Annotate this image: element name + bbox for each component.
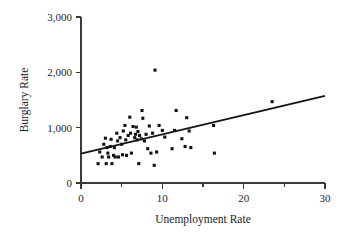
data-point-9 bbox=[109, 145, 112, 148]
data-point-32 bbox=[135, 126, 138, 129]
data-point-19 bbox=[120, 143, 123, 146]
chart-canvas: 01,0002,0003,0000102030Unemployment Rate… bbox=[0, 0, 346, 236]
data-point-21 bbox=[122, 129, 125, 132]
data-point-49 bbox=[158, 124, 161, 127]
data-point-33 bbox=[136, 138, 139, 141]
data-point-26 bbox=[128, 116, 131, 119]
data-point-5 bbox=[105, 162, 108, 165]
data-point-43 bbox=[148, 124, 151, 127]
data-point-22 bbox=[123, 124, 126, 127]
data-point-11 bbox=[110, 162, 113, 165]
regression-line bbox=[81, 96, 325, 154]
data-point-44 bbox=[149, 152, 152, 155]
data-point-15 bbox=[115, 132, 118, 135]
data-point-14 bbox=[114, 155, 117, 158]
y-tick-label-3000: 3,000 bbox=[47, 11, 72, 23]
data-point-56 bbox=[184, 145, 187, 148]
y-tick-label-1000: 1,000 bbox=[47, 122, 72, 134]
data-point-16 bbox=[116, 139, 119, 142]
x-tick-label-0: 0 bbox=[78, 192, 84, 204]
trend-line bbox=[81, 96, 325, 154]
x-axis-title: Unemployment Rate bbox=[155, 213, 251, 226]
data-point-51 bbox=[163, 136, 166, 139]
data-point-24 bbox=[125, 154, 128, 157]
data-points bbox=[97, 69, 274, 167]
data-point-7 bbox=[106, 152, 109, 155]
data-point-27 bbox=[129, 132, 132, 135]
data-point-45 bbox=[151, 132, 154, 135]
data-point-29 bbox=[132, 125, 135, 128]
data-point-13 bbox=[113, 146, 116, 149]
data-point-58 bbox=[188, 129, 191, 132]
data-point-0 bbox=[97, 162, 100, 165]
x-tick-label-10: 10 bbox=[157, 192, 169, 204]
data-point-3 bbox=[102, 143, 105, 146]
data-point-62 bbox=[271, 100, 274, 103]
data-point-55 bbox=[180, 137, 183, 140]
data-point-38 bbox=[140, 109, 143, 112]
data-point-52 bbox=[171, 147, 174, 150]
data-point-4 bbox=[104, 137, 107, 140]
data-point-50 bbox=[161, 129, 164, 132]
data-point-36 bbox=[138, 134, 141, 137]
data-point-1 bbox=[98, 150, 101, 153]
data-point-61 bbox=[213, 152, 216, 155]
data-point-28 bbox=[130, 152, 133, 155]
data-point-60 bbox=[212, 124, 215, 127]
axis-labels: 01,0002,0003,0000102030Unemployment Rate… bbox=[18, 11, 331, 226]
x-tick-label-20: 20 bbox=[238, 192, 250, 204]
data-point-40 bbox=[143, 139, 146, 142]
data-point-46 bbox=[153, 164, 156, 167]
data-point-48 bbox=[155, 150, 158, 153]
data-point-47 bbox=[153, 69, 156, 72]
data-point-34 bbox=[136, 130, 139, 133]
data-point-37 bbox=[140, 137, 143, 140]
data-point-31 bbox=[134, 133, 137, 136]
x-tick-label-30: 30 bbox=[320, 192, 332, 204]
data-point-20 bbox=[121, 153, 124, 156]
y-tick-label-2000: 2,000 bbox=[47, 66, 72, 78]
y-tick-label-0: 0 bbox=[67, 177, 73, 189]
data-point-35 bbox=[137, 162, 140, 165]
data-point-57 bbox=[185, 116, 188, 119]
data-point-54 bbox=[175, 109, 178, 112]
data-point-42 bbox=[146, 147, 149, 150]
y-axis-title: Burglary Rate bbox=[18, 68, 31, 133]
data-point-23 bbox=[124, 138, 127, 141]
data-point-59 bbox=[189, 146, 192, 149]
data-point-53 bbox=[173, 129, 176, 132]
data-point-6 bbox=[105, 146, 108, 149]
data-point-10 bbox=[110, 138, 113, 141]
data-point-8 bbox=[107, 155, 110, 158]
data-point-17 bbox=[117, 155, 120, 158]
data-point-39 bbox=[141, 117, 144, 120]
data-point-2 bbox=[101, 155, 104, 158]
data-point-18 bbox=[118, 136, 121, 139]
data-point-41 bbox=[145, 133, 148, 136]
scatter-plot-figure: 01,0002,0003,0000102030Unemployment Rate… bbox=[0, 0, 346, 236]
